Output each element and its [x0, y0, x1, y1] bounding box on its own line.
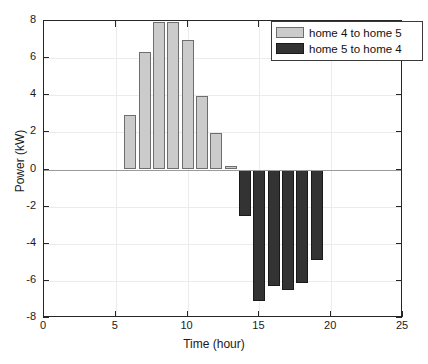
x-tick-label: 20: [315, 320, 345, 331]
x-tick-label: 10: [172, 320, 202, 331]
gridline-horizontal: [44, 132, 401, 133]
y-tick: [43, 57, 49, 58]
x-tick-top: [115, 21, 116, 27]
legend-swatch-home5-to-home4: [276, 43, 304, 54]
bar: [268, 170, 280, 287]
x-tick-top: [43, 21, 44, 27]
legend-item[interactable]: home 4 to home 5: [276, 25, 418, 40]
bar: [124, 115, 136, 170]
bar: [196, 96, 208, 169]
gridline-horizontal: [44, 207, 401, 208]
y-tick-right: [396, 131, 402, 132]
bar: [153, 22, 165, 170]
bar: [139, 52, 151, 170]
bar: [167, 22, 179, 170]
gridline-horizontal: [44, 281, 401, 282]
y-tick-right: [396, 280, 402, 281]
x-tick-top: [187, 21, 188, 27]
bar: [311, 170, 323, 261]
y-tick-right: [396, 169, 402, 170]
chart-legend: home 4 to home 5 home 5 to home 4: [271, 21, 423, 61]
legend-label: home 4 to home 5: [309, 27, 402, 39]
x-tick-label: 15: [243, 320, 273, 331]
y-tick: [43, 206, 49, 207]
y-tick: [43, 280, 49, 281]
x-tick-label: 5: [100, 320, 130, 331]
y-tick-label: 6: [6, 51, 36, 62]
y-tick-right: [396, 206, 402, 207]
bar: [210, 133, 222, 169]
figure: 86420-2-4-6-8 0510152025 Power (kW) Time…: [0, 0, 428, 364]
x-axis-title: Time (hour): [0, 337, 428, 351]
y-tick-right: [396, 243, 402, 244]
x-tick: [330, 311, 331, 317]
plot-area: [43, 20, 402, 317]
y-tick: [43, 243, 49, 244]
bar: [182, 40, 194, 169]
legend-label: home 5 to home 4: [309, 43, 402, 55]
gridline-vertical: [116, 21, 117, 316]
x-tick: [402, 311, 403, 317]
y-tick: [43, 131, 49, 132]
bar: [282, 170, 294, 291]
y-tick-right: [396, 94, 402, 95]
legend-swatch-home4-to-home5: [276, 27, 304, 38]
y-tick: [43, 317, 49, 318]
y-tick: [43, 169, 49, 170]
x-tick: [258, 311, 259, 317]
bar: [296, 170, 308, 283]
x-tick-top: [258, 21, 259, 27]
y-tick-label: 8: [6, 14, 36, 25]
y-tick: [43, 94, 49, 95]
gridline-vertical: [331, 21, 332, 316]
gridline-horizontal: [44, 95, 401, 96]
x-tick: [115, 311, 116, 317]
gridline-horizontal: [44, 244, 401, 245]
y-tick-right: [396, 317, 402, 318]
x-tick-label: 25: [387, 320, 417, 331]
x-tick-label: 0: [28, 320, 58, 331]
y-tick-label: -6: [6, 274, 36, 285]
bar: [239, 170, 251, 216]
x-tick: [43, 311, 44, 317]
legend-item[interactable]: home 5 to home 4: [276, 41, 418, 56]
bar: [253, 170, 265, 302]
x-tick: [187, 311, 188, 317]
y-axis-title: Power (kW): [13, 81, 27, 241]
zero-baseline: [44, 170, 401, 171]
